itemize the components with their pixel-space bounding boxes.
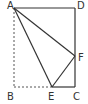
segment-ef [52, 56, 75, 87]
label-b: B [7, 91, 14, 102]
label-f: F [78, 52, 84, 63]
label-c: C [73, 91, 80, 102]
label-a: A [7, 0, 14, 11]
segment-ae [14, 8, 52, 87]
diagram-canvas: A D F B E C [0, 0, 88, 104]
label-d: D [77, 0, 85, 11]
segment-af [14, 8, 75, 56]
label-e: E [48, 91, 54, 102]
geometry-figure: A D F B E C [0, 0, 88, 104]
